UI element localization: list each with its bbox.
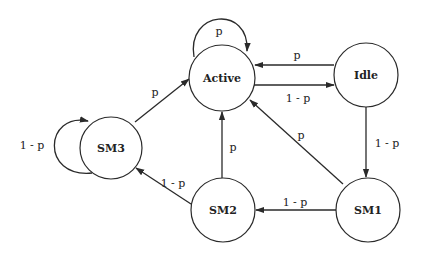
node-label-idle: Idle	[354, 69, 378, 82]
edge-sm1-to-sm2: 1 - p	[256, 196, 336, 211]
edge-label-idle-active: p	[293, 49, 300, 62]
edge-label-sm1-active: p	[297, 129, 304, 142]
edge-label-sm2-sm3: 1 - p	[161, 177, 186, 190]
edge-sm2-to-active: p	[222, 112, 237, 178]
edge-label-sm3-self: 1 - p	[20, 139, 45, 152]
edge-sm2-to-sm3: 1 - p	[136, 168, 191, 204]
edge-label-active-self: p	[215, 25, 222, 38]
edge-active-to-idle: 1 - p	[254, 85, 334, 105]
edge-sm1-to-active: p	[250, 100, 343, 184]
node-label-sm3: SM3	[97, 142, 125, 155]
node-label-sm2: SM2	[209, 204, 237, 217]
edge-label-idle-sm1: 1 - p	[375, 137, 400, 150]
node-sm1: SM1	[336, 178, 400, 242]
edge-label-sm1-sm2: 1 - p	[283, 196, 308, 209]
edge-label-sm3-active: p	[151, 86, 158, 99]
node-sm3: SM3	[80, 117, 142, 179]
edge-idle-to-sm1: 1 - p	[366, 107, 399, 177]
state-diagram: p p 1 - p 1 - p p 1 - p p 1 - p p 1 - p	[0, 0, 421, 254]
edge-label-sm2-active: p	[229, 141, 236, 154]
edge-label-active-idle: 1 - p	[286, 92, 311, 105]
node-active: Active	[189, 45, 255, 111]
node-label-sm1: SM1	[354, 204, 382, 217]
edge-idle-to-active: p	[255, 49, 334, 66]
node-label-active: Active	[202, 72, 241, 85]
node-sm2: SM2	[191, 178, 255, 242]
node-idle: Idle	[334, 43, 398, 107]
edge-sm3-to-active: p	[135, 79, 189, 122]
